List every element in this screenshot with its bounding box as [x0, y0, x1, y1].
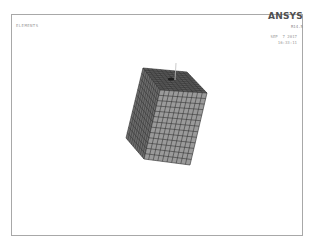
triad-origin-marker [168, 77, 174, 80]
mesh-model[interactable] [0, 0, 314, 247]
